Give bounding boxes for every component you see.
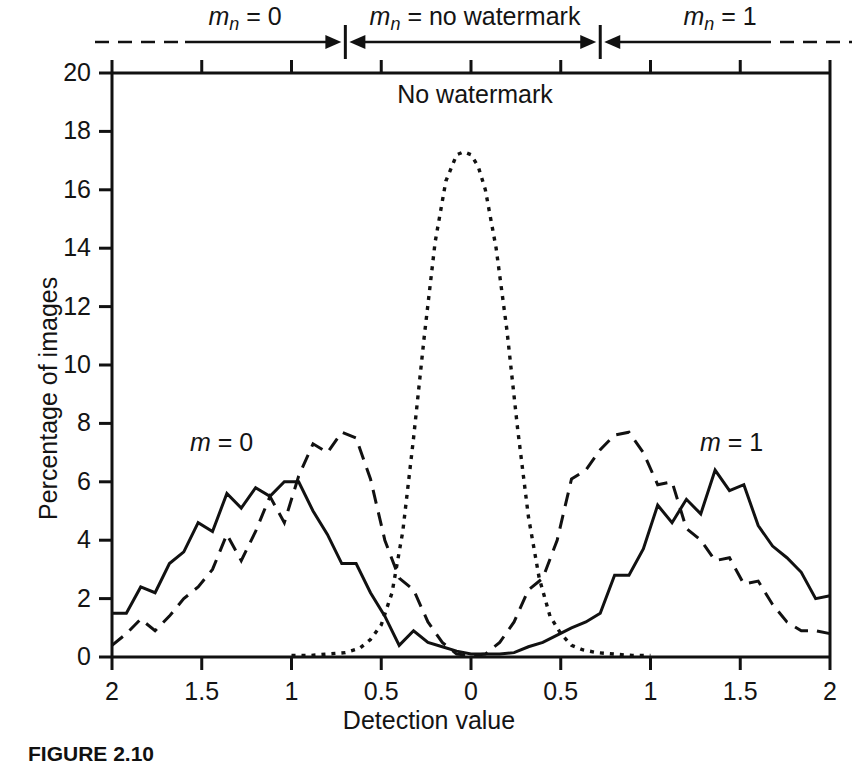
series-label-m-1-rest: = 1 — [721, 428, 763, 456]
y-tick-label-10: 20 — [31, 58, 91, 87]
series-label-m-0-rest: = 0 — [211, 428, 253, 456]
y-tick-label-5: 10 — [31, 350, 91, 379]
y-tick-label-3: 6 — [31, 467, 91, 496]
x-tick-label-3: 0.5 — [341, 677, 421, 706]
series-line-1 — [112, 432, 830, 655]
segment-label-mn-1: mn = 1 — [605, 2, 835, 35]
ruler-seg-mn-nowatermark-arrow-right — [580, 35, 596, 49]
y-tick-label-8: 16 — [31, 175, 91, 204]
x-tick-label-2: 1 — [252, 677, 332, 706]
y-tick-label-4: 8 — [31, 408, 91, 437]
segment-label-mn-nowatermark: mn = no watermark — [350, 2, 600, 35]
ruler-seg-mn-1-arrow-left — [604, 35, 620, 49]
ruler-seg-mn-0-arrow-right — [325, 35, 341, 49]
series-label-m-1: m = 1 — [700, 428, 763, 457]
series-line-2 — [292, 152, 651, 656]
segment-label-mn-0-rest: = 0 — [239, 2, 281, 30]
segment-label-mn-nowatermark-var: m — [370, 2, 391, 30]
x-tick-label-4: 0 — [431, 677, 511, 706]
segment-label-mn-nowatermark-rest: = no watermark — [400, 2, 580, 30]
chart-canvas — [0, 0, 858, 762]
y-tick-label-2: 4 — [31, 525, 91, 554]
x-tick-label-7: 1.5 — [700, 677, 780, 706]
x-axis-title: Detection value — [0, 706, 858, 735]
chart-series — [112, 152, 830, 656]
y-tick-label-6: 12 — [31, 292, 91, 321]
segment-label-mn-1-rest: = 1 — [714, 2, 756, 30]
series-label-m-0: m = 0 — [190, 428, 253, 457]
y-tick-label-0: 0 — [31, 642, 91, 671]
annotation-no-watermark: No watermark — [380, 80, 570, 109]
segment-label-mn-0: mn = 0 — [130, 2, 360, 35]
segment-label-mn-nowatermark-subscript: n — [390, 14, 400, 34]
series-label-m-0-var: m — [190, 428, 211, 456]
chart-axes — [99, 60, 830, 670]
y-tick-label-1: 2 — [31, 584, 91, 613]
y-tick-label-9: 18 — [31, 116, 91, 145]
x-tick-label-1: 1.5 — [162, 677, 242, 706]
series-line-0 — [112, 470, 830, 654]
series-label-m-1-var: m — [700, 428, 721, 456]
segment-label-mn-1-var: m — [683, 2, 704, 30]
x-tick-label-8: 2 — [790, 677, 858, 706]
ruler-seg-mn-nowatermark-arrow-left — [349, 35, 365, 49]
x-tick-label-0: 2 — [72, 677, 152, 706]
x-tick-label-6: 1 — [611, 677, 691, 706]
segment-label-mn-0-subscript: n — [229, 14, 239, 34]
x-tick-label-5: 0.5 — [521, 677, 601, 706]
segment-label-mn-0-var: m — [208, 2, 229, 30]
figure-root: mn = 0 mn = no watermark mn = 1 No water… — [0, 0, 858, 762]
segment-label-mn-1-subscript: n — [704, 14, 714, 34]
figure-caption: FIGURE 2.10 — [28, 742, 154, 762]
y-tick-label-7: 14 — [31, 233, 91, 262]
